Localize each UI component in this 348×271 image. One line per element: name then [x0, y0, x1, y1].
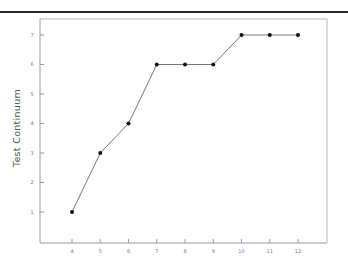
plot-frame	[40, 19, 327, 243]
data-point-marker	[211, 63, 215, 67]
x-tick-label: 10	[238, 248, 244, 254]
y-tick-label: 7	[30, 32, 33, 38]
data-point-marker	[240, 33, 244, 37]
line-chart: 1234567 456789101112 Test Continuum	[0, 0, 348, 271]
y-tick-label: 3	[30, 150, 33, 156]
data-series	[70, 33, 300, 214]
y-tick-label: 4	[30, 120, 33, 126]
y-axis: 1234567	[30, 32, 44, 215]
x-tick-label: 6	[127, 248, 130, 254]
series-line	[72, 35, 298, 212]
x-axis: 456789101112	[70, 239, 301, 254]
x-tick-label: 12	[295, 248, 301, 254]
data-point-marker	[98, 151, 102, 155]
data-point-marker	[296, 33, 300, 37]
y-axis-title: Test Continuum	[11, 89, 22, 168]
x-tick-label: 5	[99, 248, 102, 254]
x-tick-label: 11	[267, 248, 273, 254]
x-tick-label: 8	[183, 248, 186, 254]
data-point-marker	[183, 63, 187, 67]
x-tick-label: 7	[155, 248, 158, 254]
y-tick-label: 6	[30, 61, 33, 67]
data-point-marker	[70, 210, 74, 214]
x-tick-label: 4	[70, 248, 73, 254]
y-tick-label: 1	[30, 209, 33, 215]
data-point-marker	[268, 33, 272, 37]
data-point-marker	[155, 63, 159, 67]
data-point-marker	[127, 122, 131, 126]
x-tick-label: 9	[212, 248, 215, 254]
y-tick-label: 2	[30, 179, 33, 185]
y-tick-label: 5	[30, 91, 33, 97]
